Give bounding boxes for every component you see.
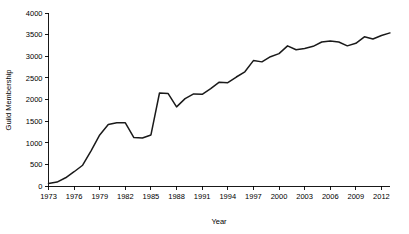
x-tick-label: 1973 (40, 192, 57, 201)
y-tick-label: 0 (38, 182, 42, 191)
x-tick-label: 2003 (296, 192, 313, 201)
y-tick-label: 2000 (26, 95, 43, 104)
x-tick-label: 1976 (66, 192, 83, 201)
line-chart: 05001000150020002500300035004000 1973197… (0, 0, 409, 234)
x-tick-label: 2006 (322, 192, 339, 201)
y-tick-label: 1500 (26, 117, 43, 126)
y-axis-title: Guild Membership (4, 70, 13, 131)
x-tick-label: 1991 (194, 192, 211, 201)
chart-container: 05001000150020002500300035004000 1973197… (0, 0, 409, 234)
x-tick-label: 1997 (245, 192, 262, 201)
x-axis-title: Year (211, 217, 227, 226)
x-tick-label: 2009 (348, 192, 365, 201)
y-tick-label: 500 (30, 160, 43, 169)
y-tick-label: 3000 (26, 52, 43, 61)
x-tick-label: 1988 (168, 192, 185, 201)
y-tick-label: 2500 (26, 74, 43, 83)
x-tick-label: 1994 (219, 192, 236, 201)
y-tick-label: 4000 (26, 9, 43, 18)
x-tick-label: 2012 (373, 192, 390, 201)
y-tick-label: 1000 (26, 139, 43, 148)
x-tick-label: 1985 (143, 192, 160, 201)
x-tick-label: 1982 (117, 192, 134, 201)
x-tick-label: 1979 (91, 192, 108, 201)
y-tick-label: 3500 (26, 30, 43, 39)
x-tick-label: 2000 (271, 192, 288, 201)
